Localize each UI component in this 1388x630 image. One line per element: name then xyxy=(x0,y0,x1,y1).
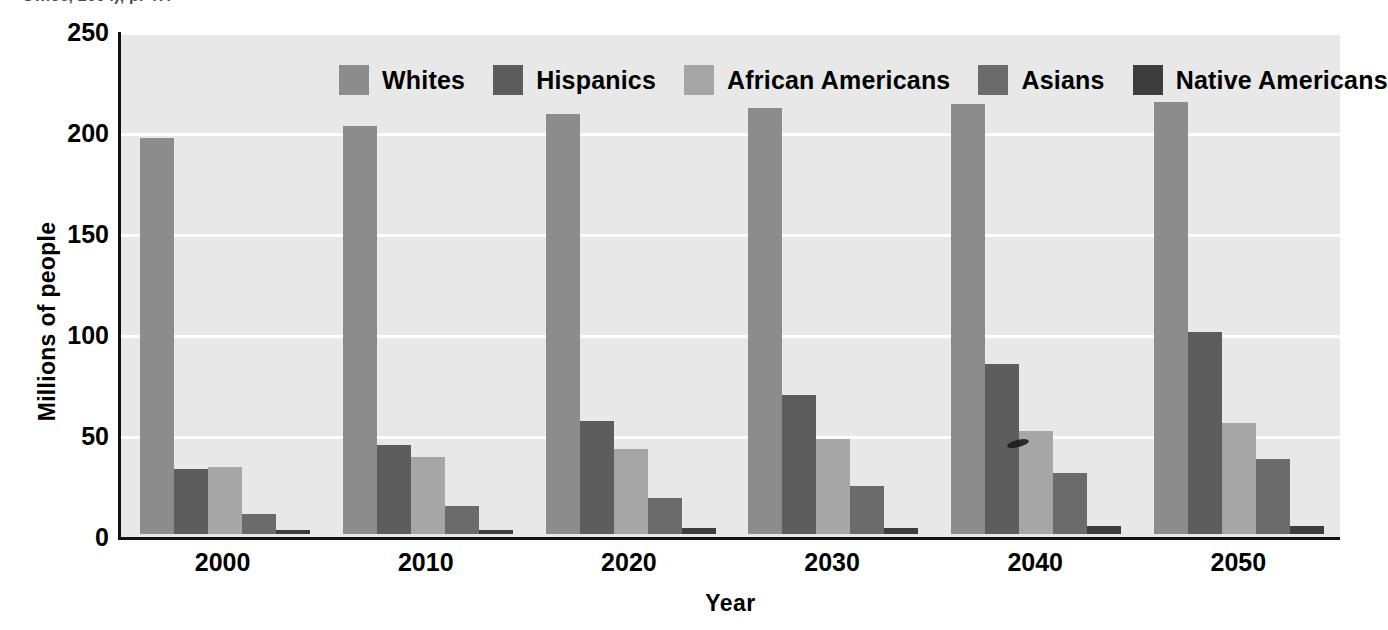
bar-hispanics-2050 xyxy=(1188,332,1222,534)
citation-text: Office, 2004), p. 47. xyxy=(22,0,171,5)
bar-asians-2050 xyxy=(1256,459,1290,534)
bar-african-americans-2000 xyxy=(208,467,242,534)
legend-swatch-icon xyxy=(1133,65,1163,95)
citation-strip: Office, 2004), p. 47. xyxy=(0,0,1350,13)
bar-native-americans-2000 xyxy=(276,530,310,534)
bar-native-americans-2050 xyxy=(1290,526,1324,534)
bar-group-2030 xyxy=(748,32,918,534)
y-tick-label-0: 0 xyxy=(0,525,109,550)
x-tick-label-2000: 2000 xyxy=(133,548,313,577)
bar-hispanics-2020 xyxy=(580,421,614,534)
x-tick-label-2050: 2050 xyxy=(1148,548,1328,577)
bar-whites-2030 xyxy=(748,108,782,534)
bar-hispanics-2000 xyxy=(174,469,208,534)
legend-label: Asians xyxy=(1021,66,1104,95)
bar-hispanics-2010 xyxy=(377,445,411,534)
bar-african-americans-2010 xyxy=(411,457,445,534)
bar-native-americans-2010 xyxy=(479,530,513,534)
bar-african-americans-2040 xyxy=(1019,431,1053,534)
bar-whites-2020 xyxy=(546,114,580,534)
legend-item-native-americans: Native Americans xyxy=(1133,65,1388,95)
bar-hispanics-2040 xyxy=(985,364,1019,534)
legend-swatch-icon xyxy=(684,65,714,95)
bar-asians-2010 xyxy=(445,506,479,534)
bar-native-americans-2030 xyxy=(884,528,918,534)
legend-item-african-americans: African Americans xyxy=(684,65,950,95)
y-tick-label-200: 200 xyxy=(0,121,109,146)
legend-item-asians: Asians xyxy=(978,65,1104,95)
legend-swatch-icon xyxy=(978,65,1008,95)
legend-label: Hispanics xyxy=(536,66,656,95)
legend-label: Whites xyxy=(382,66,465,95)
legend-swatch-icon xyxy=(339,65,369,95)
bar-group-2040 xyxy=(951,32,1121,534)
bar-asians-2040 xyxy=(1053,473,1087,534)
legend-label: Native Americans xyxy=(1176,66,1388,95)
bar-whites-2040 xyxy=(951,104,985,534)
x-tick-label-2010: 2010 xyxy=(336,548,516,577)
legend: WhitesHispanicsAfrican AmericansAsiansNa… xyxy=(339,65,1388,95)
y-tick-label-100: 100 xyxy=(0,323,109,348)
bar-african-americans-2050 xyxy=(1222,423,1256,534)
y-tick-label-250: 250 xyxy=(0,20,109,45)
bar-group-2050 xyxy=(1154,32,1324,534)
bar-hispanics-2030 xyxy=(782,395,816,534)
bar-group-2020 xyxy=(546,32,716,534)
bar-african-americans-2020 xyxy=(614,449,648,534)
y-tick-label-50: 50 xyxy=(0,424,109,449)
bar-whites-2000 xyxy=(140,138,174,534)
bar-whites-2050 xyxy=(1154,102,1188,534)
bar-native-americans-2020 xyxy=(682,528,716,534)
legend-swatch-icon xyxy=(493,65,523,95)
legend-label: African Americans xyxy=(727,66,950,95)
bar-asians-2030 xyxy=(850,486,884,534)
y-tick-label-150: 150 xyxy=(0,222,109,247)
x-axis-ticks: 200020102020203020402050 xyxy=(121,548,1340,577)
x-tick-label-2030: 2030 xyxy=(742,548,922,577)
bar-group-2010 xyxy=(343,32,513,534)
bar-african-americans-2030 xyxy=(816,439,850,534)
x-tick-label-2020: 2020 xyxy=(539,548,719,577)
x-axis-title: Year xyxy=(121,590,1340,617)
plot-area: 250200150100500 WhitesHispanicsAfrican A… xyxy=(118,32,1340,540)
bar-asians-2020 xyxy=(648,498,682,534)
bar-native-americans-2040 xyxy=(1087,526,1121,534)
x-tick-label-2040: 2040 xyxy=(945,548,1125,577)
legend-item-hispanics: Hispanics xyxy=(493,65,656,95)
bar-groups xyxy=(124,32,1340,534)
legend-item-whites: Whites xyxy=(339,65,465,95)
bar-asians-2000 xyxy=(242,514,276,534)
bar-whites-2010 xyxy=(343,126,377,534)
bar-chart-figure: Millions of people 250200150100500 White… xyxy=(0,18,1350,630)
bar-group-2000 xyxy=(140,32,310,534)
